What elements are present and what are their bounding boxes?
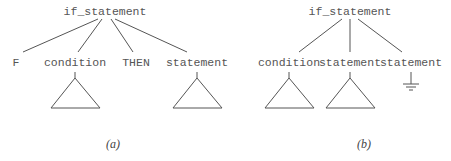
caption-a: (a) [106,137,120,152]
edge-a-statement [115,19,187,52]
subtree-triangle-icon [173,78,222,108]
tree-b-node-statement: statement [319,57,381,69]
tree-b-root-node: if_statement [309,6,392,18]
tree-a-node-then: THEN [122,57,150,69]
edge-a-f [23,19,98,52]
tree-a-root-node: if_statement [64,6,147,18]
edge-a-then [111,19,133,52]
ground-empty-icon [403,72,419,90]
tree-edges [0,0,451,161]
syntax-tree-figure: if_statement F condition THEN statement … [0,0,451,161]
subtree-triangle-icon [326,78,375,108]
caption-b: (b) [357,137,371,152]
subtree-triangle-icon [51,78,100,108]
tree-b-node-statement-empty: statement [380,57,442,69]
edge-b-condition [299,19,342,52]
edge-b-statement-empty [358,19,402,52]
tree-a-node-condition: condition [44,57,106,69]
tree-b-node-condition: condition [258,57,320,69]
subtree-triangle-icon [265,78,314,108]
tree-a-node-statement: statement [166,57,228,69]
tree-a-node-f: F [13,57,20,69]
edge-a-condition [78,19,102,52]
